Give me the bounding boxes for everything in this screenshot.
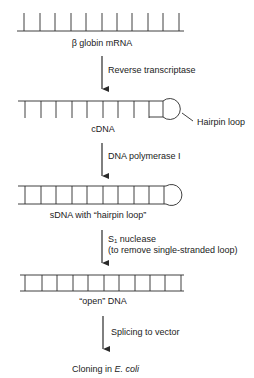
step-dna-polymerase: DNA polymerase I [108, 151, 181, 162]
open-dna-strand [20, 275, 184, 291]
hairpin-loop-callout: Hairpin loop [197, 117, 245, 128]
sdna-strand [18, 185, 182, 206]
sdna-label: sDNA with “hairpin loop” [50, 210, 147, 221]
mrna-label: β globin mRNA [72, 38, 133, 49]
step-splicing: Splicing to vector [111, 327, 180, 338]
step-reverse-transcriptase: Reverse transcriptase [108, 65, 196, 76]
cdna-label: cDNA [91, 124, 115, 135]
mrna-strand [17, 13, 184, 31]
hairpin-callout-line [182, 113, 193, 121]
step-s1-nuclease-note: (to remove single-stranded loop) [108, 245, 238, 256]
open-dna-label: “open” DNA [79, 296, 127, 307]
final-cloning-label: Cloning in E. coli [72, 364, 139, 375]
diagram-canvas [0, 0, 254, 378]
cdna-strand [18, 99, 193, 122]
